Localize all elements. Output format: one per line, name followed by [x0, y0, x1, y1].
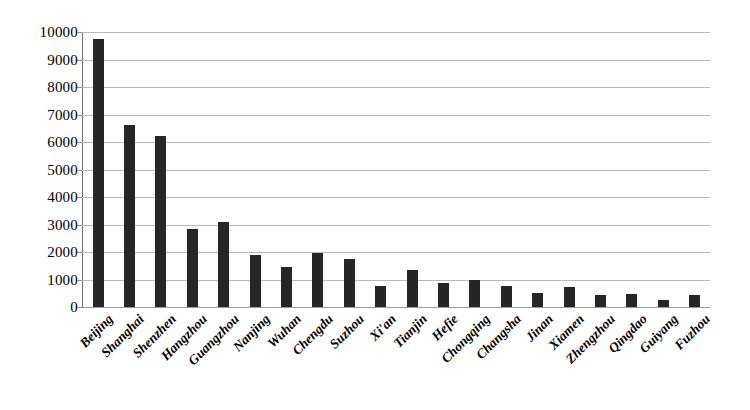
x-category-label: Suzhou — [327, 312, 367, 352]
x-category-label: Tianjin — [391, 312, 430, 351]
x-axis-category-labels: BeijingShanghaiShenzhenHangzhouGuangzhou… — [0, 0, 750, 410]
bar-chart-figure: 1000090008000700060005000400030002000100… — [0, 0, 750, 410]
